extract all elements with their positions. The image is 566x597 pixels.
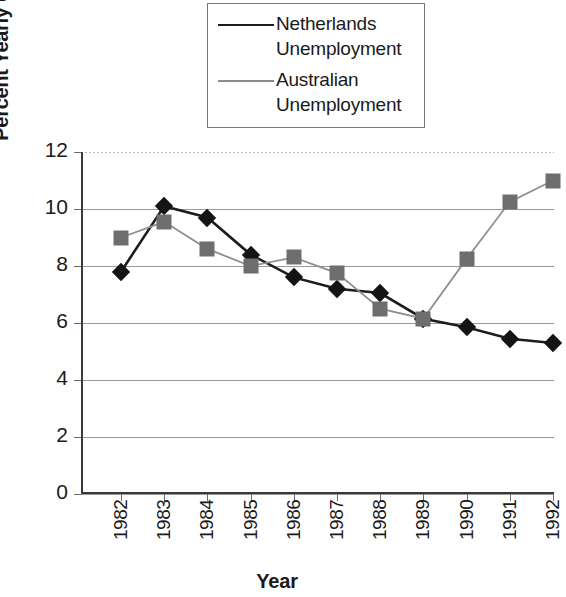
y-tick-label-10: 10 xyxy=(28,195,68,219)
x-tick-label-1991: 1991 xyxy=(499,500,523,570)
x-tick-label-1989: 1989 xyxy=(412,500,436,570)
data-point-australian-1985 xyxy=(243,259,258,274)
series-lines xyxy=(81,152,554,494)
legend-swatch-australian xyxy=(218,70,274,91)
x-tick-label-1983: 1983 xyxy=(153,500,177,570)
data-point-australian-1986 xyxy=(286,250,301,265)
data-point-australian-1987 xyxy=(330,266,345,281)
y-tick-label-0: 0 xyxy=(28,480,68,504)
legend-line-australian xyxy=(218,80,274,82)
legend-label-netherlands: Netherlands Unemployment xyxy=(276,11,401,61)
y-tick-label-6: 6 xyxy=(28,309,68,333)
legend-swatch-netherlands xyxy=(218,14,274,35)
x-tick-label-1986: 1986 xyxy=(283,500,307,570)
y-tick-10 xyxy=(74,209,81,210)
y-tick-label-4: 4 xyxy=(28,366,68,390)
chart-legend: Netherlands Unemployment Australian Unem… xyxy=(207,3,425,128)
y-tick-12 xyxy=(74,152,81,153)
y-tick-4 xyxy=(74,380,81,381)
data-point-australian-1983 xyxy=(157,214,172,229)
x-axis-title: Year xyxy=(0,570,554,593)
legend-item-netherlands: Netherlands Unemployment xyxy=(218,14,401,61)
data-point-australian-1990 xyxy=(459,251,474,266)
y-tick-label-8: 8 xyxy=(28,252,68,276)
legend-label-australian: Australian Unemployment xyxy=(276,67,401,117)
data-point-australian-1989 xyxy=(416,311,431,326)
x-tick-label-1985: 1985 xyxy=(240,500,264,570)
y-tick-label-12: 12 xyxy=(28,138,68,162)
x-tick-label-1984: 1984 xyxy=(196,500,220,570)
plot-area xyxy=(81,152,554,494)
data-point-australian-1991 xyxy=(502,194,517,209)
y-axis-title: Percent Yearly Unemployment xyxy=(0,0,16,172)
data-point-australian-1984 xyxy=(200,241,215,256)
data-point-australian-1988 xyxy=(373,301,388,316)
y-tick-2 xyxy=(74,437,81,438)
x-tick-label-1990: 1990 xyxy=(456,500,480,570)
y-tick-label-2: 2 xyxy=(28,423,68,447)
y-tick-8 xyxy=(74,266,81,267)
x-tick-label-1982: 1982 xyxy=(110,500,134,570)
legend-item-australian: Australian Unemployment xyxy=(218,70,401,117)
data-point-australian-1992 xyxy=(546,173,561,188)
x-tick-label-1992: 1992 xyxy=(542,500,566,570)
x-tick-label-1988: 1988 xyxy=(369,500,393,570)
y-tick-6 xyxy=(74,323,81,324)
gridline-0 xyxy=(81,494,554,495)
y-tick-0 xyxy=(74,494,81,495)
legend-line-netherlands xyxy=(218,24,274,26)
x-tick-label-1987: 1987 xyxy=(326,500,350,570)
data-point-australian-1982 xyxy=(114,230,129,245)
